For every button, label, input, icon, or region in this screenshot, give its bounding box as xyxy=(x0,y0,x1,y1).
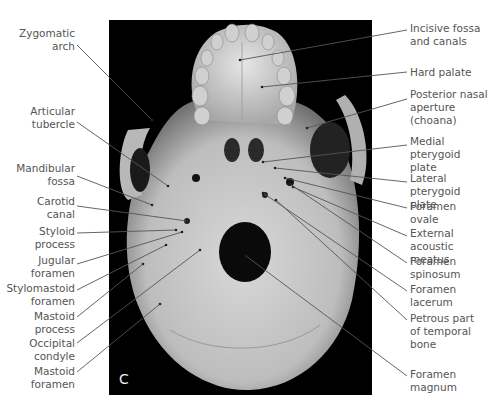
label-mandibular-fossa: Mandibular fossa xyxy=(11,162,75,188)
label-foramen-spinosum: Foramen spinosum xyxy=(410,255,492,281)
label-medial-pterygoid-plate: Medial pterygoid plate xyxy=(410,135,492,174)
label-hard-palate: Hard palate xyxy=(410,66,492,79)
label-incisive-fossa: Incisive fossa and canals xyxy=(410,22,492,48)
label-mastoid-foramen: Mastoid foramen xyxy=(11,365,75,391)
label-jugular-foramen: Jugular foramen xyxy=(11,254,75,280)
label-zygomatic-arch: Zygomatic arch xyxy=(11,27,75,53)
label-foramen-ovale: Foramen ovale xyxy=(410,200,492,226)
label-petrous-part-temporal: Petrous part of temporal bone xyxy=(410,312,492,351)
panel-letter: C xyxy=(119,371,129,387)
label-mastoid-process: Mastoid process xyxy=(11,310,75,336)
label-carotid-canal: Carotid canal xyxy=(11,195,75,221)
label-articular-tubercle: Articular tubercle xyxy=(11,105,75,131)
label-occipital-condyle: Occipital condyle xyxy=(11,337,75,363)
skull-inferior-view-photo: C xyxy=(109,20,372,395)
label-stylomastoid-foramen: Stylomastoid foramen xyxy=(0,282,75,308)
label-styloid-process: Styloid process xyxy=(11,225,75,251)
label-foramen-magnum: Foramen magnum xyxy=(410,368,492,394)
label-foramen-lacerum: Foramen lacerum xyxy=(410,283,492,309)
skull-illustration xyxy=(109,20,372,395)
label-posterior-nasal-aperture: Posterior nasal aperture (choana) xyxy=(410,88,492,127)
